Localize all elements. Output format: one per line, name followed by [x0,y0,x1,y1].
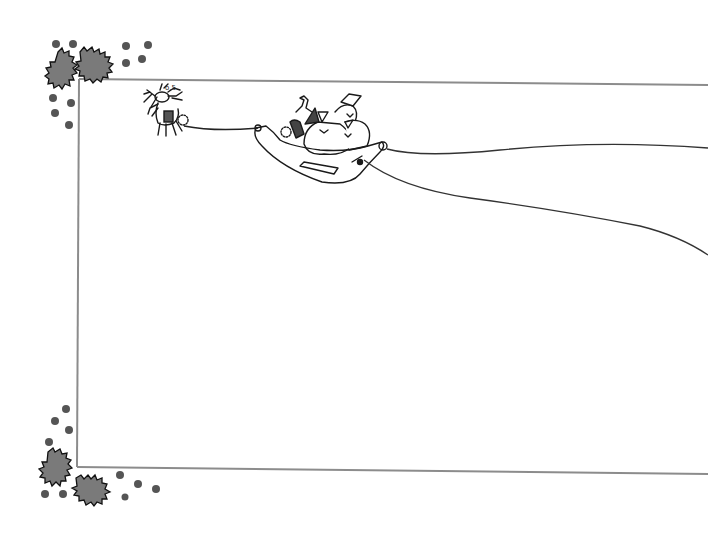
reins-line [184,126,258,130]
holly-bottom-left-icon [39,448,110,506]
svg-text:o,5: o,5 [165,84,176,92]
christmas-card-illustration: o,5 [0,0,708,533]
sleigh-icon [255,94,387,183]
sleigh-trail-lines [364,144,708,255]
reindeer-icon: o,5 [144,84,188,136]
frame-border [77,79,708,474]
